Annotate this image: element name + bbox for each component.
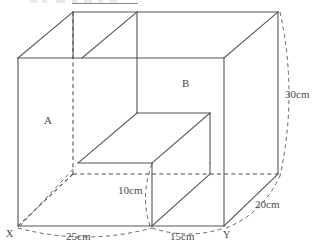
vertex-label-y: Y [223,229,230,240]
vertex-label-x: X [6,228,13,239]
geometry-figure: A B X Y 25cm 15cm 10cm 20cm 30cm [0,0,319,245]
dimension-label-depth: 20cm [255,199,279,210]
front-lower-face-fill [18,58,224,226]
dimension-label-notch-height: 10cm [118,185,142,196]
dimension-label-bottom-right: 15cm [170,231,194,242]
face-label-b: B [182,78,189,89]
dimension-label-height: 30cm [285,89,309,100]
face-label-a: A [44,115,52,126]
dimension-label-bottom-left: 25cm [66,231,90,242]
